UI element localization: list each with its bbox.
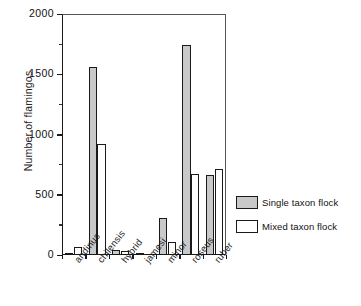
legend-label: Mixed taxon flock: [262, 221, 337, 232]
legend-swatch: [236, 220, 258, 233]
x-axis-labels: andinuschilensishybridjamesiminorroseusr…: [62, 258, 226, 306]
chart-figure: Number of flamingos 0500100015002000 and…: [0, 0, 361, 306]
legend-item[interactable]: Mixed taxon flock: [236, 220, 360, 233]
y-tick-label: 2000: [29, 7, 54, 19]
bar: [182, 45, 190, 255]
y-axis: 0500100015002000: [0, 14, 62, 255]
bar-group: [62, 14, 226, 255]
legend-label: Single taxon flock: [262, 197, 338, 208]
legend-swatch: [236, 196, 258, 209]
y-tick-label: 1000: [29, 128, 54, 140]
bar: [215, 169, 223, 255]
y-tick-label: 1500: [29, 67, 54, 79]
y-tick-label: 500: [35, 188, 54, 200]
legend-item[interactable]: Single taxon flock: [236, 196, 360, 209]
y-tick-label: 0: [48, 248, 54, 260]
chart-legend: Single taxon flockMixed taxon flock: [236, 196, 360, 244]
bar: [89, 67, 97, 255]
bar: [191, 174, 199, 255]
